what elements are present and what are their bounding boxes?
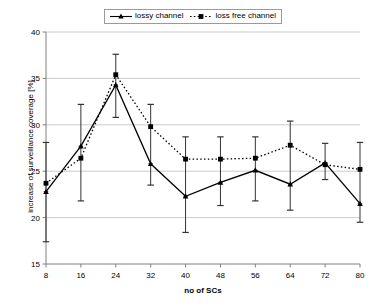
x-tick-label-16: 16: [76, 271, 85, 280]
data-point-loss-free-channel-56: [253, 156, 258, 161]
series-line-lossy-channel: [46, 85, 360, 204]
y-axis-title: increase of surveillance coverage [%]: [26, 47, 35, 247]
data-point-loss-free-channel-40: [183, 157, 188, 162]
error-bar-16: [78, 104, 84, 201]
x-tick-label-40: 40: [181, 271, 190, 280]
data-point-loss-free-channel-48: [218, 157, 223, 162]
data-point-loss-free-channel-16: [78, 156, 83, 161]
x-tick-label-32: 32: [146, 271, 155, 280]
legend-entry-lossy-channel: lossy channel: [110, 11, 183, 21]
x-tick-label-24: 24: [111, 271, 120, 280]
x-tick-label-80: 80: [356, 271, 365, 280]
data-point-loss-free-channel-24: [113, 72, 118, 77]
error-bar-80: [357, 142, 363, 222]
data-point-loss-free-channel-8: [44, 181, 49, 186]
data-point-loss-free-channel-32: [148, 124, 153, 129]
data-point-loss-free-channel-80: [358, 167, 363, 172]
chart-plot-area: 1520253035408162432404856647280: [0, 0, 381, 307]
legend-entry-loss-free-channel: loss free channel: [190, 11, 275, 21]
y-tick-label-15: 15: [31, 260, 40, 269]
data-point-loss-free-channel-64: [288, 143, 293, 148]
x-tick-label-72: 72: [321, 271, 330, 280]
x-axis-title: no of SCs: [46, 286, 360, 295]
y-tick-label-40: 40: [31, 28, 40, 37]
series-line-loss-free-channel: [46, 75, 360, 184]
legend-marker-loss-free-channel: [190, 12, 212, 21]
chart-legend: lossy channel loss free channel: [104, 9, 282, 24]
chart-figure: 1520253035408162432404856647280 lossy ch…: [0, 0, 381, 307]
error-bar-32: [147, 104, 153, 185]
x-tick-label-8: 8: [44, 271, 49, 280]
error-bar-64: [287, 121, 293, 210]
legend-marker-lossy-channel: [110, 12, 132, 21]
error-bar-40: [182, 137, 188, 233]
x-tick-label-64: 64: [286, 271, 295, 280]
x-tick-label-48: 48: [216, 271, 225, 280]
x-tick-label-56: 56: [251, 271, 260, 280]
legend-label-loss-free-channel: loss free channel: [215, 11, 275, 21]
legend-label-lossy-channel: lossy channel: [135, 11, 183, 21]
